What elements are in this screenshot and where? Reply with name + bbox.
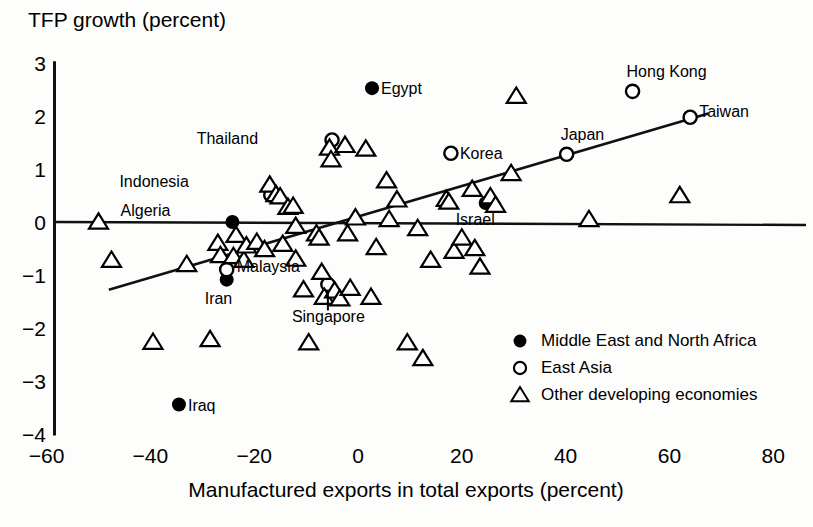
data-point-2-21 — [294, 281, 313, 296]
point-label-japan: Japan — [561, 126, 605, 143]
y-tick-label-neg2: −2 — [22, 317, 46, 340]
data-point-2-57 — [670, 187, 689, 202]
data-point-2-37 — [367, 239, 386, 254]
x-tick-label-80: 80 — [762, 444, 785, 467]
point-label-iraq: Iraq — [188, 397, 216, 414]
data-point-2-5 — [208, 235, 227, 250]
data-point-japan — [560, 148, 573, 161]
data-point-2-19 — [286, 218, 305, 233]
data-point-2-42 — [408, 220, 427, 235]
legend-marker-open-circle — [514, 362, 526, 374]
x-tick-label-0: 0 — [352, 444, 364, 467]
y-tick-label-1: 1 — [34, 158, 46, 181]
chart-figure: 3210−1−2−3−4−60−40−20020406080 EgyptAlge… — [0, 0, 813, 527]
data-point-2-4 — [201, 331, 220, 346]
y-tick-label-0: 0 — [34, 211, 46, 234]
legend-marker-open-triangle — [511, 387, 528, 401]
point-label-malaysia: Malaysia — [237, 258, 300, 275]
point-label-iran: Iran — [205, 290, 233, 307]
point-label-singapore: Singapore — [292, 308, 365, 325]
data-point-2-1 — [102, 251, 121, 266]
point-label-hong-kong: Hong Kong — [627, 63, 707, 80]
data-point-2-49 — [463, 181, 482, 196]
data-point-2-33 — [341, 280, 360, 295]
data-point-2-36 — [361, 289, 380, 304]
point-label-indonesia: Indonesia — [119, 173, 188, 190]
scatter-plot-canvas: 3210−1−2−3−4−60−40−20020406080 EgyptAlge… — [0, 0, 813, 527]
x-tick-label-20: 20 — [450, 444, 473, 467]
data-point-2-40 — [387, 191, 406, 206]
x-axis-title: Manufactured exports in total exports (p… — [188, 478, 623, 501]
data-point-2-22 — [299, 334, 318, 349]
y-tick-label-neg1: −1 — [22, 264, 46, 287]
x-axis-zero-line — [55, 222, 807, 225]
data-point-iraq — [172, 398, 186, 412]
data-point-2-25 — [312, 264, 331, 279]
point-label-israel: Israel — [456, 211, 495, 228]
legend-label-other-developing-economies: Other developing economies — [541, 385, 757, 404]
legend-label-middle-east-and-north-africa: Middle East and North Africa — [541, 331, 757, 350]
x-tick-label-40: 40 — [554, 444, 577, 467]
data-point-2-48 — [452, 229, 471, 244]
data-point-2-55 — [507, 87, 526, 102]
data-point-egypt — [365, 81, 379, 95]
y-tick-label-neg3: −3 — [22, 370, 46, 393]
x-tick-label-neg60: −60 — [29, 444, 65, 467]
data-point-2-38 — [377, 172, 396, 187]
point-label-thailand: Thailand — [197, 130, 258, 147]
data-point-2-8 — [227, 227, 246, 242]
y-tick-label-2: 2 — [34, 105, 46, 128]
data-point-2-44 — [421, 251, 440, 266]
data-point-2-3 — [177, 256, 196, 271]
data-point-malaysia — [220, 263, 233, 276]
point-label-korea: Korea — [460, 145, 503, 162]
point-labels-layer: EgyptAlgeriaIranIsraelIraqThailandIndone… — [119, 63, 749, 413]
point-label-algeria: Algeria — [121, 202, 171, 219]
data-point-korea — [444, 147, 457, 160]
data-point-2-35 — [356, 140, 375, 155]
y-axis-title: TFP growth (percent) — [28, 8, 226, 31]
legend-label-east-asia: East Asia — [541, 358, 612, 377]
data-point-2-34 — [346, 209, 365, 224]
data-point-taiwan — [684, 111, 697, 124]
y-tick-label-3: 3 — [34, 52, 46, 75]
x-tick-label-neg40: −40 — [133, 444, 169, 467]
x-tick-label-neg20: −20 — [236, 444, 272, 467]
legend-marker-filled-circle — [514, 335, 527, 348]
point-label-taiwan: Taiwan — [699, 103, 749, 120]
x-tick-label-60: 60 — [658, 444, 681, 467]
data-point-2-41 — [398, 334, 417, 349]
data-point-2-32 — [338, 225, 357, 240]
data-point-2-2 — [143, 333, 162, 348]
data-point-2-51 — [470, 258, 489, 273]
data-point-2-39 — [380, 211, 399, 226]
y-tick-label-neg4: −4 — [22, 423, 46, 446]
data-point-2-43 — [413, 350, 432, 365]
legend-layer: Middle East and North AfricaEast AsiaOth… — [511, 331, 757, 404]
data-point-2-56 — [579, 211, 598, 226]
data-point-hong-kong — [626, 85, 639, 98]
point-label-egypt: Egypt — [381, 80, 422, 97]
